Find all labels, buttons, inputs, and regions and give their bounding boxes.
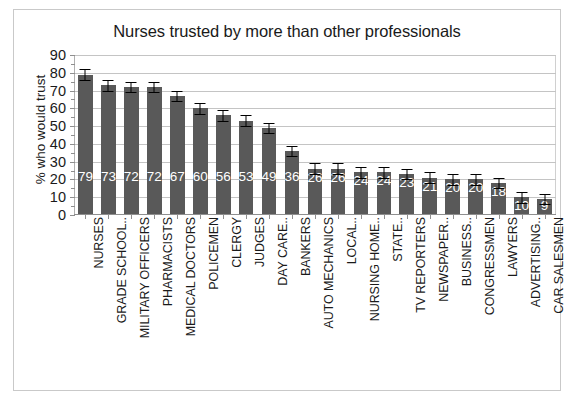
x-label-slot: NEWSPAPER..	[418, 217, 441, 367]
bar-slot: 10	[510, 55, 533, 215]
bar-slot: 20	[464, 55, 487, 215]
bar-value-label: 56	[212, 170, 235, 184]
bar-value-label: 49	[258, 170, 281, 184]
x-label-slot: MILITARY OFFICERS	[120, 217, 143, 367]
bar-series: 7973727267605653493626262424232120201810…	[74, 55, 556, 215]
x-label-slot: PHARMACISTS	[143, 217, 166, 367]
x-label-slot: CLERGY	[212, 217, 235, 367]
bar-value-label: 73	[97, 170, 120, 184]
bar-slot: 20	[441, 55, 464, 215]
bar-value-label: 79	[74, 170, 97, 184]
x-axis-labels: NURSESGRADE SCHOOL..MILITARY OFFICERSPHA…	[74, 217, 556, 367]
bar-value-label: 53	[235, 170, 258, 184]
error-bar-cap-bottom	[264, 133, 275, 134]
error-bar-cap-bottom	[401, 179, 412, 180]
x-label-slot: STATE..	[372, 217, 395, 367]
error-bar	[131, 82, 132, 93]
x-label-slot: BANKERS	[281, 217, 304, 367]
bar-slot: 23	[395, 55, 418, 215]
error-bar-cap-top	[195, 103, 206, 104]
x-label-slot: POLICEMEN	[189, 217, 212, 367]
bar-value-label: 36	[281, 170, 304, 184]
bar-value-label: 67	[166, 170, 189, 184]
error-bar-cap-top	[287, 146, 298, 147]
error-bar	[360, 167, 361, 178]
error-bar-cap-top	[401, 169, 412, 170]
error-bar	[269, 123, 270, 134]
x-label-slot: JUDGES	[235, 217, 258, 367]
error-bar-cap-top	[80, 69, 91, 70]
x-label-slot: ADVERTISING..	[510, 217, 533, 367]
bar-slot: 49	[258, 55, 281, 215]
x-label-slot: NURSES	[74, 217, 97, 367]
bar[interactable]	[124, 87, 139, 215]
y-tick-label: 0	[24, 208, 66, 223]
error-bar	[154, 82, 155, 93]
error-bar-cap-bottom	[424, 183, 435, 184]
bar[interactable]	[78, 75, 93, 215]
error-bar-cap-top	[516, 192, 527, 193]
y-tick-label: 60	[24, 101, 66, 116]
error-bar-cap-top	[378, 167, 389, 168]
y-tick-label: 50	[24, 119, 66, 134]
error-bar-cap-top	[355, 167, 366, 168]
bar-slot: 18	[487, 55, 510, 215]
error-bar	[475, 174, 476, 185]
error-bar	[177, 91, 178, 102]
bar-slot: 24	[372, 55, 395, 215]
x-axis-category-label: CAR SALESMEN	[552, 217, 566, 314]
x-label-slot: AUTO MECHANICS	[304, 217, 327, 367]
bar[interactable]	[101, 85, 116, 215]
bar[interactable]	[239, 121, 254, 215]
error-bar-cap-bottom	[309, 174, 320, 175]
x-label-slot: LOCAL..	[326, 217, 349, 367]
error-bar-cap-top	[264, 123, 275, 124]
error-bar-cap-bottom	[103, 91, 114, 92]
error-bar-cap-bottom	[80, 80, 91, 81]
error-bar-cap-bottom	[516, 203, 527, 204]
y-tick-label: 80	[24, 66, 66, 81]
x-axis-line	[74, 214, 556, 215]
x-label-slot: NURSING HOME..	[349, 217, 372, 367]
error-bar	[544, 194, 545, 205]
bar[interactable]	[193, 108, 208, 215]
error-bar-cap-top	[309, 163, 320, 164]
error-bar	[314, 163, 315, 174]
error-bar	[108, 80, 109, 91]
error-bar-cap-bottom	[470, 185, 481, 186]
error-bar-cap-bottom	[287, 156, 298, 157]
error-bar-cap-top	[493, 178, 504, 179]
error-bar-cap-bottom	[539, 204, 550, 205]
error-bar-cap-top	[103, 80, 114, 81]
y-axis-tick-mark	[70, 215, 75, 216]
error-bar-cap-top	[470, 174, 481, 175]
plot-area: 7973727267605653493626262424232120201810…	[74, 55, 556, 215]
bar-value-label: 72	[120, 170, 143, 184]
error-bar-cap-top	[424, 172, 435, 173]
error-bar	[521, 192, 522, 203]
error-bar	[406, 169, 407, 180]
bar[interactable]	[147, 87, 162, 215]
error-bar-cap-top	[332, 163, 343, 164]
error-bar-cap-bottom	[218, 121, 229, 122]
error-bar-cap-bottom	[332, 174, 343, 175]
x-label-slot: MEDICAL DOCTORS	[166, 217, 189, 367]
error-bar	[383, 167, 384, 178]
error-bar-cap-bottom	[126, 92, 137, 93]
error-bar-cap-bottom	[493, 188, 504, 189]
error-bar-cap-top	[172, 91, 183, 92]
bar-slot: 67	[166, 55, 189, 215]
bar-slot: 79	[74, 55, 97, 215]
x-label-slot: CONGRESSMEN	[464, 217, 487, 367]
error-bar-cap-bottom	[149, 92, 160, 93]
bar[interactable]	[170, 96, 185, 215]
bar-value-label: 60	[189, 170, 212, 184]
bar-slot: 72	[143, 55, 166, 215]
error-bar	[452, 174, 453, 185]
bar-slot: 72	[120, 55, 143, 215]
error-bar-cap-bottom	[378, 178, 389, 179]
error-bar	[337, 163, 338, 174]
bar-slot: 9	[533, 55, 556, 215]
bar[interactable]	[216, 115, 231, 215]
error-bar	[223, 110, 224, 121]
